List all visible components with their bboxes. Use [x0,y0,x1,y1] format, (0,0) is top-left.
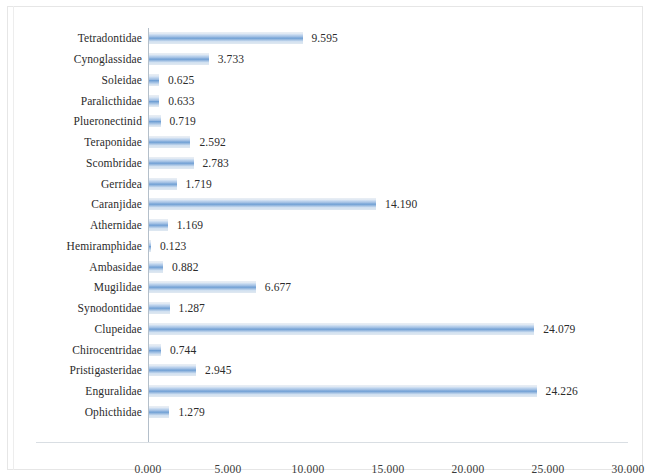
x-axis-tick-label: 20.000 [452,463,485,475]
bar-value-label: 0.719 [170,115,196,127]
bar-row: Pristigasteridae2.945 [148,360,628,381]
bar [149,261,163,272]
bar [149,116,161,127]
category-label: Soleidae [102,74,142,86]
bar-row: Clupeidae24.079 [148,319,628,340]
bar-row: Athernidae1.169 [148,215,628,236]
bar-row: Hemiramphidae0.123 [148,236,628,257]
bar-row: Mugilidae6.677 [148,277,628,298]
bar-row: Chirocentridae0.744 [148,339,628,360]
bar [149,54,209,65]
category-label: Plueronectinid [74,115,142,127]
x-axis-tick-label: 0.000 [135,463,162,475]
bar [149,344,161,355]
x-axis: 0.0005.00010.00015.00020.00025.00030.000 [148,457,628,458]
plot-area: Tetradontidae9.595Cynoglassidae3.733Sole… [148,28,628,443]
bar [149,95,159,106]
x-axis-tick-label: 15.000 [372,463,405,475]
bar-value-label: 2.592 [199,136,225,148]
bar [149,220,168,231]
bar [149,178,177,189]
bar-value-label: 3.733 [218,53,244,65]
x-axis-tick-label: 25.000 [532,463,565,475]
category-label: Hemiramphidae [67,240,142,252]
bar [149,386,537,397]
bar [149,137,190,148]
bar-value-label: 24.079 [543,323,575,335]
bar-value-label: 0.633 [168,95,194,107]
category-label: Pristigasteridae [70,364,143,376]
category-label: Scombridae [86,157,142,169]
category-label: Ophicthidae [85,406,142,418]
bar-rows: Tetradontidae9.595Cynoglassidae3.733Sole… [148,28,628,443]
bar-row: Plueronectinid0.719 [148,111,628,132]
category-label: Clupeidae [94,323,142,335]
bar [149,157,194,168]
bar-value-label: 0.882 [172,261,198,273]
bar-row: Synodontidae1.287 [148,298,628,319]
page-border-inner-rule [13,6,14,470]
bar-row: Gerridea1.719 [148,173,628,194]
bar [149,199,376,210]
bar [149,365,196,376]
bar-value-label: 2.945 [205,364,231,376]
bar-value-label: 24.226 [546,385,578,397]
category-label: Enguralidae [85,385,142,397]
bar-row: Ambasidae0.882 [148,256,628,277]
bar-row: Enguralidae24.226 [148,381,628,402]
category-label: Synodontidae [78,302,142,314]
bar-row: Soleidae0.625 [148,70,628,91]
bar-value-label: 1.287 [179,302,205,314]
category-label: Mugilidae [94,281,142,293]
bar [149,240,151,251]
bar-row: Caranjidae14.190 [148,194,628,215]
bar-row: Cynoglassidae3.733 [148,49,628,70]
chart-page: Tetradontidae9.595Cynoglassidae3.733Sole… [0,0,650,475]
bar [149,323,534,334]
bar-value-label: 1.719 [186,178,212,190]
bar-row: Paralicthidae0.633 [148,90,628,111]
bar [149,33,303,44]
bar-row: Ophicthidae1.279 [148,402,628,423]
category-label: Cynoglassidae [74,53,142,65]
x-axis-tick-label: 30.000 [612,463,645,475]
x-axis-tick-label: 5.000 [215,463,242,475]
bar-value-label: 1.279 [178,406,204,418]
category-label: Teraponidae [84,136,142,148]
category-label: Chirocentridae [72,344,142,356]
bar-value-label: 0.625 [168,74,194,86]
bar-value-label: 0.123 [160,240,186,252]
bar [149,303,170,314]
bar-row: Scombridae2.783 [148,153,628,174]
category-label: Gerridea [101,178,142,190]
bar [149,74,159,85]
bar-value-label: 0.744 [170,344,196,356]
category-label: Caranjidae [91,198,142,210]
bar-value-label: 9.595 [312,32,338,44]
bar-value-label: 1.169 [177,219,203,231]
category-label: Paralicthidae [81,95,142,107]
bar-value-label: 14.190 [385,198,417,210]
bar-value-label: 2.783 [203,157,229,169]
category-label: Ambasidae [89,261,142,273]
category-label: Tetradontidae [78,32,142,44]
bar-row: Tetradontidae9.595 [148,28,628,49]
bar [149,282,256,293]
category-label: Athernidae [90,219,142,231]
bar-chart: Tetradontidae9.595Cynoglassidae3.733Sole… [18,21,640,465]
bar-value-label: 6.677 [265,281,291,293]
x-axis-tick-label: 10.000 [292,463,325,475]
bar [149,406,169,417]
bar-row: Teraponidae2.592 [148,132,628,153]
